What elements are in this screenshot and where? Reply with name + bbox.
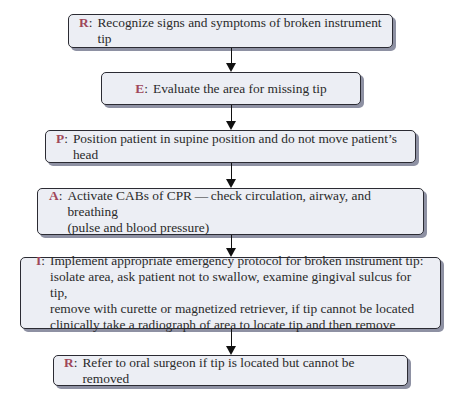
step-colon: : (41, 253, 45, 269)
step-colon: : (64, 131, 68, 147)
step-letter: A (49, 188, 59, 204)
connector-line (231, 48, 232, 64)
step-text: Position patient in supine position and … (73, 131, 405, 163)
connector-line (231, 329, 232, 347)
arrow-down-icon (226, 63, 236, 72)
step-text: Refer to oral surgeon if tip is located … (82, 355, 397, 387)
step-box-refer: R: Refer to oral surgeon if tip is locat… (53, 355, 408, 386)
step-colon: : (74, 355, 78, 371)
step-letter: R (79, 15, 89, 31)
step-letter: P (56, 131, 64, 147)
step-letter: E (135, 81, 144, 97)
step-text: Recognize signs and symptoms of broken i… (97, 15, 382, 47)
step-text: Activate CABs of CPR — check circulation… (67, 188, 413, 236)
arrow-down-icon (226, 121, 236, 130)
connector-line (231, 235, 232, 249)
connector-line (231, 163, 232, 180)
step-letter: R (64, 355, 74, 371)
step-box-recognize: R: Recognize signs and symptoms of broke… (68, 14, 393, 48)
step-box-evaluate: E: Evaluate the area for missing tip (101, 72, 361, 105)
step-colon: : (59, 188, 63, 204)
step-box-implement: I: Implement appropriate emergency proto… (20, 257, 441, 329)
step-colon: : (144, 81, 148, 97)
step-box-position: P: Position patient in supine position a… (45, 130, 416, 163)
connector-line (231, 105, 232, 122)
step-box-activate: A: Activate CABs of CPR — check circulat… (37, 188, 424, 235)
step-colon: : (89, 15, 93, 31)
step-text: Implement appropriate emergency protocol… (50, 253, 430, 333)
step-text: Evaluate the area for missing tip (153, 81, 327, 97)
